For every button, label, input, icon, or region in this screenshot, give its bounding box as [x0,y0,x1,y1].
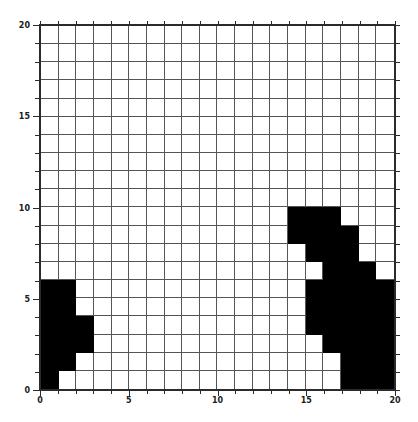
grid-cell [306,135,324,153]
grid-cell [94,135,112,153]
x-axis-tick-top [182,21,183,25]
grid-cell [323,207,341,225]
grid-cell [129,226,147,244]
grid-cell [94,62,112,80]
y-axis-tick [35,80,39,81]
grid-cell [182,244,200,262]
y-axis-tick-label: 15 [19,112,30,121]
grid-cell [288,298,306,316]
x-axis-tick-top [235,21,236,25]
grid-cell [112,207,130,225]
grid-cell [76,62,94,80]
grid-cell [235,226,253,244]
grid-cell [200,26,218,44]
x-axis-tick-label: 15 [301,396,312,405]
grid-cell [235,316,253,334]
grid-cell [94,171,112,189]
grid-cell [76,80,94,98]
grid-cell [112,353,130,371]
grid-cell [253,153,271,171]
grid-cell [235,244,253,262]
y-axis-tick-right [396,317,400,318]
grid-cell [323,189,341,207]
x-axis-tick-top [93,21,94,25]
grid-cell [253,353,271,371]
grid-cell [41,62,59,80]
x-axis-tick [93,390,94,394]
grid-cell [323,26,341,44]
grid-cell [341,207,359,225]
y-axis-tick-right [396,189,400,190]
grid-cell [165,207,183,225]
x-axis-tick-top [360,21,361,25]
grid-cell [341,353,359,371]
x-axis-tick-top [342,21,343,25]
grid-cell [323,280,341,298]
grid-cell [235,189,253,207]
grid-cell [94,226,112,244]
grid-cell [112,262,130,280]
grid-cell [112,117,130,135]
grid-cell [112,335,130,353]
y-axis-tick-right [396,80,400,81]
grid-cell [253,189,271,207]
y-axis-tick-right [396,25,400,26]
grid-cell [323,44,341,62]
grid-cell [94,262,112,280]
grid-cell [323,117,341,135]
grid-cell [147,171,165,189]
grid-cell [182,171,200,189]
x-axis-tick-top [58,21,59,25]
y-axis-tick [35,43,39,44]
grid-cell [288,44,306,62]
grid-cell [200,298,218,316]
grid-cell [76,99,94,117]
grid-cell [376,135,394,153]
grid-cell [165,371,183,389]
grid-cell [323,316,341,334]
grid-cell [76,26,94,44]
grid-cell [129,99,147,117]
cell-grid [41,26,394,389]
grid-cell [288,244,306,262]
grid-cell [41,99,59,117]
grid-cell [76,226,94,244]
grid-cell [147,316,165,334]
grid-cell [200,280,218,298]
grid-cell [94,280,112,298]
grid-cell [76,262,94,280]
grid-cell [147,26,165,44]
grid-cell [270,298,288,316]
grid-cell [94,44,112,62]
grid-cell [288,335,306,353]
y-axis-tick-right [396,299,400,300]
grid-cell [306,153,324,171]
grid-cell [112,280,130,298]
grid-cell [59,26,77,44]
y-axis-tick-right [396,335,400,336]
grid-cell [288,316,306,334]
grid-cell [165,135,183,153]
grid-cell [112,298,130,316]
grid-cell [112,80,130,98]
grid-cell [165,353,183,371]
grid-cell [59,207,77,225]
grid-cell [59,171,77,189]
grid-cell [200,226,218,244]
grid-cell [182,280,200,298]
grid-cell [59,62,77,80]
grid-cell [376,44,394,62]
y-axis-tick-right [396,244,400,245]
grid-cell [270,135,288,153]
y-axis-tick [35,317,39,318]
grid-cell [270,244,288,262]
grid-cell [76,335,94,353]
grid-cell [94,335,112,353]
grid-cell [112,226,130,244]
y-axis-tick [35,354,39,355]
grid-cell [200,153,218,171]
grid-cell [165,153,183,171]
grid-cell [235,353,253,371]
y-axis-tick [35,262,39,263]
y-axis-tick [35,244,39,245]
